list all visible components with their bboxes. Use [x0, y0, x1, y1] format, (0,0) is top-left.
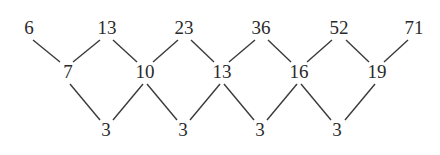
edge-line	[224, 84, 254, 120]
difference-lattice-diagram: 61323365271 710131619 3333	[0, 0, 440, 155]
edge-line	[73, 40, 100, 62]
middle-node-label: 19	[368, 61, 387, 82]
middle-node-label: 13	[213, 61, 232, 82]
top-node-label: 13	[98, 17, 117, 38]
edge-line	[267, 84, 297, 120]
bottom-node-label: 3	[255, 119, 265, 140]
edge-line	[384, 40, 408, 62]
bottom-node-label: 3	[101, 119, 111, 140]
top-node-label: 36	[252, 17, 271, 38]
edge-line	[33, 40, 60, 62]
bottom-node-label: 3	[332, 119, 342, 140]
edge-line	[70, 84, 100, 120]
top-node-label: 71	[405, 17, 424, 38]
edge-line	[153, 40, 178, 62]
edge-line	[301, 84, 331, 120]
edge-line	[307, 40, 332, 62]
diagram-svg: 61323365271 710131619 3333	[0, 0, 440, 155]
edge-line	[229, 40, 255, 62]
edge-line	[113, 84, 143, 120]
top-node-label: 6	[24, 17, 34, 38]
top-row: 61323365271	[24, 17, 423, 38]
edge-line	[345, 84, 375, 120]
top-node-label: 23	[175, 17, 194, 38]
edge-line	[113, 40, 137, 62]
middle-node-label: 10	[136, 61, 155, 82]
middle-row: 710131619	[63, 61, 386, 82]
top-node-label: 52	[330, 17, 349, 38]
middle-node-label: 16	[290, 61, 309, 82]
edge-line	[190, 84, 220, 120]
edge-line	[147, 84, 177, 120]
bottom-row: 3333	[101, 119, 342, 140]
edge-line	[268, 40, 291, 62]
edge-line	[346, 40, 369, 62]
edge-line	[191, 40, 214, 62]
middle-node-label: 7	[63, 61, 73, 82]
bottom-node-label: 3	[178, 119, 188, 140]
